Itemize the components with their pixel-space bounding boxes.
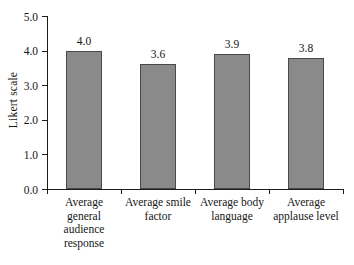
y-axis-label-text: Likert scale <box>7 72 19 128</box>
x-axis-tick <box>343 189 344 194</box>
x-axis-tick <box>121 189 122 194</box>
bar-chart-figure: Likert scale 0.01.02.03.04.05.0 4.03.63.… <box>0 0 354 265</box>
bar-value-label: 3.8 <box>299 42 313 54</box>
bar: 3.9 <box>214 54 250 189</box>
y-axis-tick-label: 3.0 <box>24 80 38 92</box>
y-axis-tick-label: 4.0 <box>24 45 38 57</box>
x-axis-category-label: Average applause level <box>269 196 343 223</box>
y-axis-tick: 2.0 <box>42 120 47 121</box>
x-axis-category-label: Average general audience response <box>47 196 121 250</box>
x-axis-category-label: Average body language <box>195 196 269 223</box>
bar-value-label: 4.0 <box>77 35 91 47</box>
y-axis-line <box>47 16 48 190</box>
bar: 3.8 <box>288 58 324 189</box>
bar-value-label: 3.9 <box>225 38 239 50</box>
x-axis-tick <box>47 189 48 194</box>
y-axis-tick-label: 0.0 <box>24 184 38 196</box>
y-axis-tick: 4.0 <box>42 51 47 52</box>
x-axis-tick <box>195 189 196 194</box>
y-axis-tick: 5.0 <box>42 16 47 17</box>
x-axis-tick <box>269 189 270 194</box>
bar: 4.0 <box>66 51 102 189</box>
y-axis-tick-label: 2.0 <box>24 114 38 126</box>
y-axis-label: Likert scale <box>2 0 24 200</box>
plot-area: 0.01.02.03.04.05.0 4.03.63.93.8 <box>47 16 343 189</box>
y-axis-tick-label: 5.0 <box>24 11 38 23</box>
bar: 3.6 <box>140 64 176 189</box>
bar-value-label: 3.6 <box>151 48 165 60</box>
y-axis-tick: 1.0 <box>42 154 47 155</box>
x-axis-category-label: Average smile factor <box>121 196 195 223</box>
y-axis-tick: 3.0 <box>42 85 47 86</box>
y-axis-tick-label: 1.0 <box>24 149 38 161</box>
